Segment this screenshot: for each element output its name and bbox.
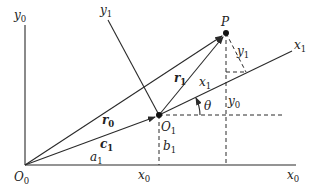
vector-r0 — [25, 36, 222, 165]
point-p — [223, 30, 229, 36]
theta-arc — [196, 98, 200, 115]
label-o0: O0 — [14, 170, 29, 186]
label-x0-axis: x0 — [287, 168, 299, 184]
point-o1 — [156, 112, 162, 118]
label-x1-axis: x1 — [294, 38, 306, 54]
label-y1-axis: y1 — [99, 3, 112, 19]
label-y1-proj: y1 — [236, 44, 249, 60]
label-theta: θ — [204, 99, 212, 113]
label-o1: O1 — [161, 120, 176, 136]
label-x0-proj: x0 — [138, 168, 150, 184]
label-x1-proj: x1 — [199, 75, 211, 91]
label-r1: r1 — [174, 71, 186, 87]
label-r0: r0 — [102, 113, 114, 129]
label-p: P — [220, 15, 230, 29]
coordinate-frame-diagram: y0 y1 P x1 y1 r1 x1 θ y0 r0 O1 c1 b1 a1 … — [0, 0, 318, 196]
vector-r1 — [159, 37, 223, 115]
label-y0-axis: y0 — [13, 8, 26, 24]
label-y0-proj: y0 — [227, 94, 240, 110]
y1-axis — [108, 20, 159, 115]
label-b1: b1 — [163, 139, 176, 155]
label-c1: c1 — [100, 137, 113, 153]
label-a1: a1 — [90, 150, 103, 166]
